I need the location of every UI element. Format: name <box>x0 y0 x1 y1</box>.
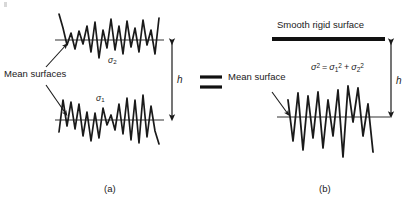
panel-b-mean-surface-label: Mean surface <box>228 71 286 82</box>
equation-plus-sign: + <box>344 62 349 72</box>
panel-a-caption: (a) <box>104 183 116 194</box>
panel-b-composite-rough-profile <box>288 86 373 157</box>
panel-a-sigma-lower-label: σ1 <box>96 93 105 103</box>
figure-vector-canvas <box>0 0 416 205</box>
panel-b-caption: (b) <box>319 183 331 194</box>
panel-a-sigma-upper-label: σ2 <box>108 55 117 65</box>
panel-b-leader-arrow <box>272 92 288 114</box>
equation-term1-superscript: 2 <box>338 62 342 69</box>
roughness-equivalence-figure: Mean surfaces σ2 σ1 h (a) Smooth rigid s… <box>0 0 416 205</box>
sigma-lower-subscript: 1 <box>101 96 104 103</box>
panel-a-gap-label: h <box>177 74 183 85</box>
panel-a-upper-rough-profile <box>59 14 159 58</box>
panel-b-smooth-rigid-surface-label: Smooth rigid surface <box>277 19 364 30</box>
equation-term2-superscript: 2 <box>360 62 364 69</box>
sigma-upper-subscript: 2 <box>113 58 116 65</box>
equation-lhs-superscript: 2 <box>316 62 320 69</box>
panel-b-gap-label: h <box>396 75 402 86</box>
panel-b-variance-equation: σ2=σ12+σ22 <box>311 62 364 73</box>
panel-a-mean-surfaces-label: Mean surfaces <box>4 68 66 79</box>
panel-a-upper-leader-arrow <box>46 45 66 67</box>
equation-equals-sign: = <box>322 62 327 72</box>
